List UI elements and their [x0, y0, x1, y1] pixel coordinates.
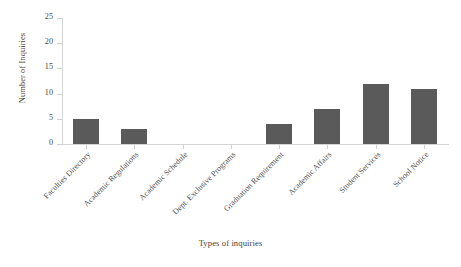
- y-axis-tick-label: 20: [45, 37, 53, 46]
- bar-chart-figure: Number of Inquiries 0510152025 Faculties…: [0, 0, 461, 267]
- y-axis-tick-label: 0: [49, 138, 53, 147]
- x-axis-tick: [134, 145, 135, 149]
- y-axis-tick-label: 10: [45, 88, 53, 97]
- bar: [266, 124, 292, 144]
- x-axis-tick: [376, 145, 377, 149]
- y-axis-tick-label: 5: [49, 113, 53, 122]
- bar: [73, 119, 99, 144]
- x-axis-title: Types of inquiries: [0, 238, 461, 248]
- x-axis-tick: [327, 145, 328, 149]
- x-axis-tick: [183, 145, 184, 149]
- y-axis-tick-label: 25: [45, 12, 53, 21]
- bar: [121, 129, 147, 144]
- y-axis-tick: 0: [57, 144, 62, 145]
- bar: [411, 89, 437, 144]
- x-axis-tick: [279, 145, 280, 149]
- y-axis-title: Number of Inquiries: [12, 0, 34, 143]
- y-axis-tick-label: 15: [45, 62, 53, 71]
- x-axis-line: [62, 144, 449, 145]
- bar: [314, 109, 340, 144]
- bar: [363, 84, 389, 144]
- x-axis-tick: [231, 145, 232, 149]
- x-axis-tick: [86, 145, 87, 149]
- plot-area: [62, 18, 448, 144]
- x-axis-tick: [424, 145, 425, 149]
